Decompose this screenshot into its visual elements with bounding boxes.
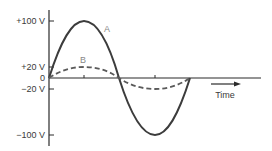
- curve-a-label: A: [104, 24, 110, 34]
- y-label-0: 0: [40, 73, 45, 83]
- sine-wave-diagram: +100 V +20 V 0 −20 V −100 V A B Time: [0, 0, 272, 151]
- y-label-minus-20: −20 V: [21, 84, 45, 94]
- curve-b-label: B: [80, 55, 86, 65]
- y-label-100: +100 V: [16, 16, 45, 26]
- time-label: Time: [215, 90, 235, 100]
- time-arrow-head-icon: [234, 82, 241, 87]
- y-label-20: +20 V: [21, 62, 45, 72]
- y-label-minus-100: −100 V: [16, 130, 45, 140]
